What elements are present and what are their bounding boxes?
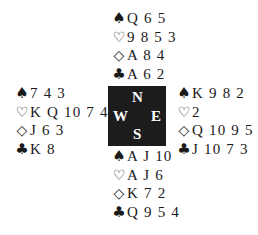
club-icon: ♣	[111, 65, 127, 84]
east-hearts: 2	[192, 103, 201, 122]
west-clubs: K 8	[30, 140, 56, 159]
spade-icon: ♠	[14, 84, 30, 103]
east-clubs: J 10 7 3	[192, 140, 249, 159]
heart-icon: ♡	[176, 103, 192, 122]
east-hand: ♠K 9 8 2 ♡2 ◇Q 10 9 5 ♣J 10 7 3	[176, 84, 254, 158]
spade-icon: ♠	[111, 9, 127, 28]
diamond-icon: ◇	[111, 46, 127, 65]
west-spades-row: ♠7 4 3	[14, 84, 109, 103]
heart-icon: ♡	[111, 28, 127, 47]
south-spades-row: ♠A J 10	[111, 147, 180, 166]
spade-icon: ♠	[111, 147, 127, 166]
east-hearts-row: ♡2	[176, 103, 254, 122]
north-spades-row: ♠Q 6 5	[111, 9, 177, 28]
south-hand: ♠A J 10 ♡A J 6 ◇K 7 2 ♣Q 9 5 4	[111, 147, 180, 221]
club-icon: ♣	[111, 203, 127, 222]
west-hearts-row: ♡K Q 10 7 4	[14, 103, 109, 122]
north-spades: Q 6 5	[127, 9, 166, 28]
north-clubs: A 6 2	[127, 65, 166, 84]
south-spades: A J 10	[127, 147, 173, 166]
heart-icon: ♡	[111, 166, 127, 185]
compass-west: W	[113, 109, 128, 124]
east-spades-row: ♠K 9 8 2	[176, 84, 254, 103]
south-hearts-row: ♡A J 6	[111, 166, 180, 185]
west-clubs-row: ♣K 8	[14, 140, 109, 159]
diamond-icon: ◇	[14, 121, 30, 140]
north-hearts: 9 8 5 3	[127, 28, 177, 47]
compass-box: N W E S	[108, 86, 166, 146]
north-diamonds: A 8 4	[127, 46, 166, 65]
east-clubs-row: ♣J 10 7 3	[176, 140, 254, 159]
north-diamonds-row: ◇A 8 4	[111, 46, 177, 65]
south-diamonds: K 7 2	[127, 184, 166, 203]
west-spades: 7 4 3	[30, 84, 66, 103]
compass-east: E	[151, 109, 161, 124]
east-spades: K 9 8 2	[192, 84, 245, 103]
diamond-icon: ◇	[111, 184, 127, 203]
east-diamonds-row: ◇Q 10 9 5	[176, 121, 254, 140]
north-hand: ♠Q 6 5 ♡9 8 5 3 ◇A 8 4 ♣A 6 2	[111, 9, 177, 83]
north-hearts-row: ♡9 8 5 3	[111, 28, 177, 47]
south-diamonds-row: ◇K 7 2	[111, 184, 180, 203]
south-clubs: Q 9 5 4	[127, 203, 180, 222]
heart-icon: ♡	[14, 103, 30, 122]
south-hearts: A J 6	[127, 166, 164, 185]
club-icon: ♣	[14, 140, 30, 159]
diamond-icon: ◇	[176, 121, 192, 140]
east-diamonds: Q 10 9 5	[192, 121, 254, 140]
compass-south: S	[133, 127, 141, 142]
compass-north: N	[132, 90, 143, 105]
south-clubs-row: ♣Q 9 5 4	[111, 203, 180, 222]
west-hearts: K Q 10 7 4	[30, 103, 109, 122]
north-clubs-row: ♣A 6 2	[111, 65, 177, 84]
west-hand: ♠7 4 3 ♡K Q 10 7 4 ◇J 6 3 ♣K 8	[14, 84, 109, 158]
west-diamonds: J 6 3	[30, 121, 64, 140]
spade-icon: ♠	[176, 84, 192, 103]
west-diamonds-row: ◇J 6 3	[14, 121, 109, 140]
